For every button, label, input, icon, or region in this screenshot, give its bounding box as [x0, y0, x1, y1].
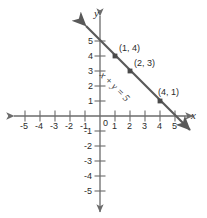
y-tick-label-5: 5	[88, 37, 93, 46]
point-label-1-4: (1, 4)	[119, 44, 140, 53]
y-tick-label-3: 3	[88, 67, 93, 76]
y-tick-label--4: -4	[84, 172, 92, 181]
y-tick-label--3: -3	[84, 157, 92, 166]
x-tick-label-5: 5	[172, 122, 177, 131]
point-marker-2-3	[128, 69, 133, 74]
y-tick-label-2: 2	[88, 82, 93, 91]
point-label-2-3: (2, 3)	[134, 59, 155, 68]
point-label-4-1: (4, 1)	[158, 88, 179, 97]
x-tick-label-1: 1	[112, 122, 117, 131]
y-axis-label: y	[94, 8, 99, 19]
origin-label: 0	[103, 119, 108, 128]
y-tick-label-4: 4	[88, 52, 93, 61]
x-tick-label--2: -2	[65, 122, 73, 131]
y-tick-label-1: 1	[88, 97, 93, 106]
point-marker-4-1	[158, 99, 163, 104]
y-tick-label--5: -5	[84, 187, 92, 196]
y-tick-label--2: -2	[84, 142, 92, 151]
point-marker-1-4	[113, 54, 118, 59]
x-axis-label: x	[191, 110, 196, 121]
x-tick-label-4: 4	[157, 122, 162, 131]
coordinate-graph: x y 0 -5 -4 -3 -2 -1 1 2 3 4 5 5 4 3 2 1…	[0, 0, 207, 218]
y-axis	[95, 16, 106, 212]
x-tick-label-2: 2	[127, 122, 132, 131]
x-tick-label--4: -4	[35, 122, 43, 131]
x-tick-label--3: -3	[50, 122, 58, 131]
y-tick-label--1: -1	[84, 127, 92, 136]
plot-canvas	[0, 0, 207, 218]
x-tick-label-3: 3	[142, 122, 147, 131]
x-tick-label--5: -5	[20, 122, 28, 131]
